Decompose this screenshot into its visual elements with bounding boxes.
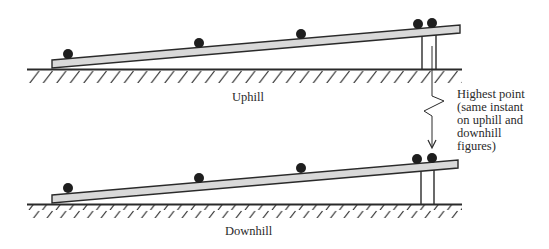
ball bbox=[63, 183, 73, 193]
ball bbox=[296, 163, 306, 173]
annotation-line: figures) bbox=[457, 140, 549, 153]
ball bbox=[194, 173, 204, 183]
uphill-figure bbox=[27, 18, 462, 83]
ramp-plank bbox=[52, 160, 458, 203]
ramp-plank bbox=[52, 25, 460, 68]
ball bbox=[427, 153, 437, 163]
downhill-figure bbox=[27, 153, 462, 218]
highest-point-arrow bbox=[424, 46, 444, 148]
ball bbox=[427, 18, 437, 28]
ball bbox=[413, 19, 423, 29]
ground-hatching bbox=[27, 205, 462, 218]
ball bbox=[194, 38, 204, 48]
ground-hatching bbox=[27, 70, 462, 83]
highest-point-annotation: Highest point (same instant on uphill an… bbox=[457, 88, 549, 153]
ball bbox=[63, 49, 73, 59]
uphill-label: Uphill bbox=[232, 90, 264, 105]
downhill-label: Downhill bbox=[225, 224, 272, 239]
ball bbox=[412, 154, 422, 164]
zigzag-line bbox=[424, 46, 444, 147]
ball bbox=[296, 29, 306, 39]
